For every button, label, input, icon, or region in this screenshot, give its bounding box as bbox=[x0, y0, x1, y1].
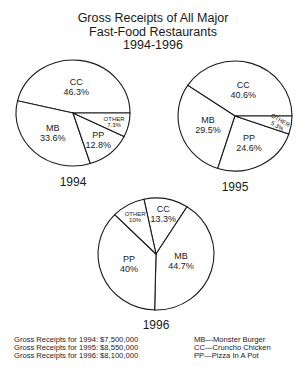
pie-charts: CC46.3%MB33.6%PP12.8%OTHER7.3%1994CC40.6… bbox=[0, 0, 306, 370]
pie-1994: CC46.3%MB33.6%PP12.8%OTHER7.3%1994 bbox=[16, 60, 130, 189]
pie-1996: CC13.3%MB44.7%PP40%OTHER10%1996 bbox=[98, 198, 214, 332]
legend-pp: PP—Pizza In A Pot bbox=[194, 352, 271, 360]
legend: MB—Monster Burger CC—Cruncho Chicken PP—… bbox=[194, 336, 271, 361]
receipts-list: Gross Receipts for 1994: $7,500,000 Gros… bbox=[14, 336, 138, 361]
pie-1995: CC40.6%MB29.5%PP24.6%OTHER5.3%1995 bbox=[178, 61, 292, 194]
receipts-1996: Gross Receipts for 1996: $8,100,000 bbox=[14, 352, 138, 360]
year-label-1994: 1994 bbox=[60, 175, 87, 189]
year-label-1996: 1996 bbox=[143, 318, 170, 332]
year-label-1995: 1995 bbox=[222, 180, 249, 194]
